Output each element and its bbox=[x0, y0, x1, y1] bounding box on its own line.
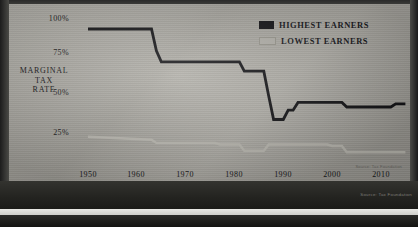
slide-lower-band bbox=[0, 181, 418, 209]
legend-item-highest-earners: HIGHEST EARNERS bbox=[259, 18, 369, 31]
legend-label-lowest: LOWEST EARNERS bbox=[281, 36, 368, 46]
frame-edge-left bbox=[0, 0, 9, 182]
legend-swatch-icon-lowest bbox=[259, 37, 276, 45]
series-line-lowest-earners bbox=[88, 137, 405, 153]
source-note-on-chart: Source: Tax Foundation bbox=[355, 164, 402, 169]
frame-edge-right bbox=[410, 0, 418, 182]
chart-legend: HIGHEST EARNERS LOWEST EARNERS bbox=[259, 18, 369, 50]
chart-canvas: 100% 75% 50% 25% MARGINAL TAX RATE 1950 … bbox=[9, 4, 410, 181]
source-note: Source: Tax Foundation bbox=[360, 192, 412, 197]
legend-swatch-icon-highest bbox=[259, 21, 274, 29]
legend-label-highest: HIGHEST EARNERS bbox=[279, 20, 369, 30]
frame-edge-bottom bbox=[0, 215, 418, 227]
legend-item-lowest-earners: LOWEST EARNERS bbox=[259, 34, 369, 47]
photographed-chart-slide: 100% 75% 50% 25% MARGINAL TAX RATE 1950 … bbox=[0, 0, 418, 227]
